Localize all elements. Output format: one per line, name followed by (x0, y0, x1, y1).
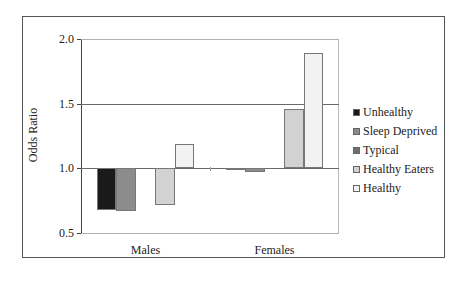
legend-swatch-icon (353, 147, 360, 154)
legend-label: Sleep Deprived (363, 124, 437, 139)
y-tick-label: 2.0 (50, 33, 74, 45)
bar-sleep-deprived-males (116, 168, 136, 211)
bar-healthy-eaters-males (155, 168, 175, 204)
legend-item: Typical (353, 141, 437, 160)
legend-swatch-icon (353, 128, 360, 135)
legend-swatch-icon (353, 166, 360, 173)
bar-healthy-females (304, 53, 324, 168)
gridline (81, 39, 339, 40)
gridline (81, 104, 339, 105)
legend-label: Healthy (363, 181, 401, 196)
y-axis-label: Odds Ratio (26, 108, 41, 162)
category-divider-tick (210, 167, 211, 171)
bar-sleep-deprived-females (245, 168, 265, 172)
legend-label: Healthy Eaters (363, 162, 434, 177)
legend-label: Typical (363, 143, 399, 158)
gridline (81, 233, 339, 234)
legend-swatch-icon (353, 185, 360, 192)
bar-unhealthy-females (226, 168, 246, 170)
y-tick-label: 1.5 (50, 98, 74, 110)
bar-unhealthy-males (97, 168, 117, 209)
x-category-label: Females (255, 243, 295, 258)
legend-item: Healthy Eaters (353, 160, 437, 179)
legend: UnhealthySleep DeprivedTypicalHealthy Ea… (353, 103, 437, 198)
bar-healthy-males (175, 144, 195, 169)
y-tick-label: 0.5 (50, 227, 74, 239)
legend-item: Unhealthy (353, 103, 437, 122)
legend-item: Sleep Deprived (353, 122, 437, 141)
bar-healthy-eaters-females (284, 109, 304, 168)
legend-label: Unhealthy (363, 105, 413, 120)
legend-item: Healthy (353, 179, 437, 198)
x-category-label: Males (131, 243, 160, 258)
y-tick-label: 1.0 (50, 162, 74, 174)
legend-swatch-icon (353, 109, 360, 116)
plot-area (81, 39, 339, 233)
